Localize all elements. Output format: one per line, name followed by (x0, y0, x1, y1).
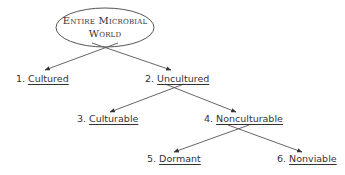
edge-root-to-uncultured (92, 43, 171, 70)
edge-root-to-cultured (45, 43, 118, 70)
node-label: Uncultured (157, 73, 209, 84)
node-cultured: 1.Cultured (16, 73, 69, 85)
node-label: Dormant (159, 153, 201, 164)
edge-nonculturable-to-dormant (174, 125, 249, 152)
root-label-line1: Entire Microbial (56, 14, 154, 27)
node-uncultured: 2.Uncultured (145, 73, 209, 85)
diagram-canvas (0, 0, 345, 175)
node-number: 2. (145, 73, 154, 84)
root-node-label: Entire Microbial World (56, 14, 154, 40)
node-label: Culturable (89, 113, 138, 124)
node-nonviable: 6.Nonviable (277, 153, 337, 165)
root-label-line2: World (56, 27, 154, 40)
node-number: 4. (204, 113, 213, 124)
edge-uncultured-to-nonculturable (165, 84, 236, 112)
node-nonculturable: 4.Nonculturable (204, 113, 283, 125)
node-number: 5. (147, 153, 156, 164)
node-number: 3. (77, 113, 86, 124)
node-culturable: 3.Culturable (77, 113, 138, 125)
node-dormant: 5.Dormant (147, 153, 201, 165)
node-label: Cultured (28, 73, 69, 84)
node-number: 6. (277, 153, 286, 164)
edge-uncultured-to-culturable (110, 84, 184, 112)
edge-nonculturable-to-nonviable (228, 125, 302, 152)
node-label: Nonculturable (216, 113, 283, 124)
node-number: 1. (16, 73, 25, 84)
node-label: Nonviable (289, 153, 337, 164)
